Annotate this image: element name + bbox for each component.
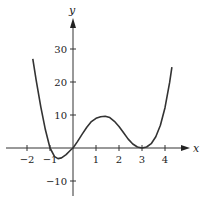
x-tick-label: 2 [116,154,122,165]
x-tick-label: 1 [93,154,99,165]
chart: −2−11234302010−10 x y [0,0,206,204]
y-tick-label: 20 [54,77,67,88]
y-tick-label: 10 [54,110,67,121]
y-axis-arrow-icon [70,18,76,28]
axes [6,18,190,196]
y-axis-label: y [68,4,76,17]
x-tick-label: −2 [20,154,35,165]
x-axis-label: x [193,142,200,155]
x-tick-label: 3 [139,154,145,165]
y-tick-label: −10 [46,176,67,187]
x-tick-label: 4 [162,154,168,165]
y-tick-label: 30 [54,44,67,55]
x-tick-label: −1 [43,154,58,165]
x-axis-arrow-icon [181,145,190,151]
